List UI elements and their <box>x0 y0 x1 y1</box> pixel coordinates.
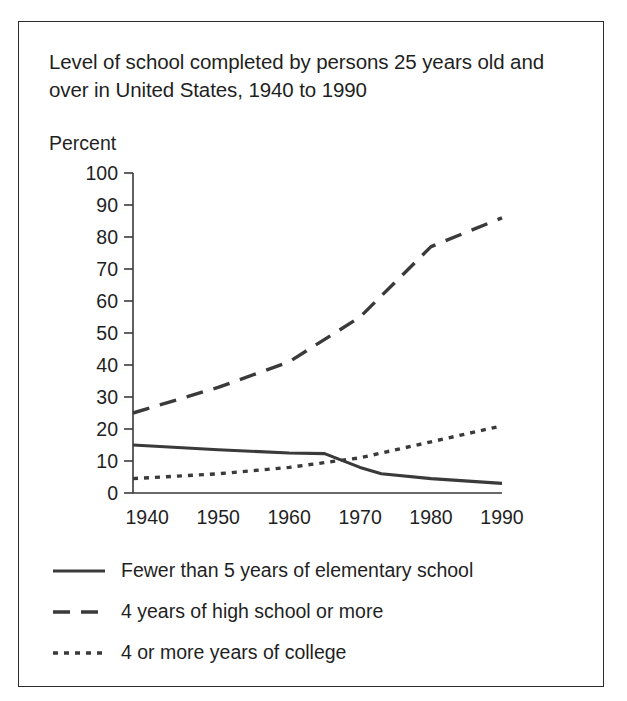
legend-item-label: 4 or more years of college <box>121 641 346 664</box>
data-series-line-2 <box>133 218 502 413</box>
chart-legend: Fewer than 5 years of elementary school4… <box>53 550 583 673</box>
legend-item-label: Fewer than 5 years of elementary school <box>121 559 473 582</box>
y-axis-tick-label: 10 <box>96 450 118 472</box>
legend-item: Fewer than 5 years of elementary school <box>53 550 583 591</box>
legend-item: 4 or more years of college <box>53 632 583 673</box>
x-axis-tick-label: 1970 <box>338 506 382 528</box>
x-axis-tick-label: 1990 <box>480 506 524 528</box>
legend-line-sample-dotted <box>53 646 109 660</box>
legend-item-label: 4 years of high school or more <box>121 600 383 623</box>
y-axis-tick-label: 90 <box>96 194 118 216</box>
figure-frame: Level of school completed by persons 25 … <box>18 21 604 687</box>
data-series-line-1 <box>133 445 502 483</box>
y-axis-tick-label: 100 <box>85 162 118 184</box>
y-axis-tick-label: 80 <box>96 226 118 248</box>
y-axis-tick-label: 20 <box>96 418 118 440</box>
y-axis-tick-label: 60 <box>96 290 118 312</box>
x-axis-tick-label: 1980 <box>409 506 453 528</box>
y-axis-tick-label: 70 <box>96 258 118 280</box>
axis-lines <box>133 173 502 493</box>
y-axis-tick-label: 50 <box>96 322 118 344</box>
x-axis-tick-label: 1940 <box>125 506 169 528</box>
legend-line-sample-solid <box>53 564 109 578</box>
y-axis-tick-label: 30 <box>96 386 118 408</box>
y-axis-tick-label: 0 <box>107 482 118 504</box>
legend-line-sample-dashed <box>53 605 109 619</box>
x-axis-tick-label: 1960 <box>267 506 311 528</box>
y-axis-tick-label: 40 <box>96 354 118 376</box>
x-axis-tick-label: 1950 <box>196 506 240 528</box>
legend-item: 4 years of high school or more <box>53 591 583 632</box>
